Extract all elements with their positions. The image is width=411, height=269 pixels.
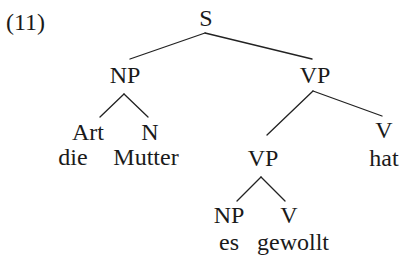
tree-edges [0, 0, 411, 269]
word-die: die [58, 145, 87, 169]
word-es: es [219, 230, 239, 254]
node-vp-inner: VP [248, 146, 279, 170]
word-gewollt: gewollt [257, 230, 329, 254]
edge-np-art [100, 94, 124, 117]
node-np-subject: NP [110, 63, 141, 87]
node-np-object: NP [214, 203, 245, 227]
word-mutter: Mutter [113, 145, 178, 169]
edge-vp-vp [267, 91, 313, 135]
node-n: N [141, 120, 158, 144]
edge-vp-v [313, 91, 382, 116]
node-v-hat: V [375, 118, 392, 142]
edge-s-vp [205, 33, 312, 59]
node-art: Art [72, 120, 104, 144]
edge-s-np [130, 33, 205, 59]
node-s: S [199, 6, 212, 30]
example-number: (11) [6, 10, 45, 34]
edge-innervp-v [261, 177, 285, 201]
edge-innervp-np [237, 177, 261, 201]
syntax-tree-diagram: (11) S NP Art N die Mutter VP V hat VP N… [0, 0, 411, 269]
word-hat: hat [369, 146, 398, 170]
edge-np-n [124, 94, 148, 117]
node-v-gewollt: V [280, 203, 297, 227]
node-vp: VP [300, 63, 331, 87]
